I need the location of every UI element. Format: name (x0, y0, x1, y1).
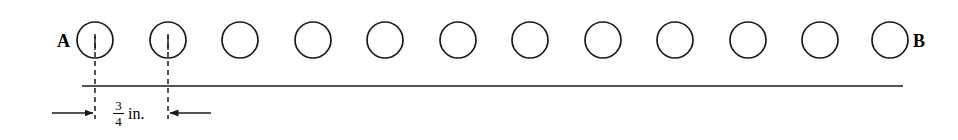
circle-hole (802, 22, 838, 58)
circle-hole (367, 22, 403, 58)
center-tick-group (95, 36, 168, 50)
circle-hole (657, 22, 693, 58)
endpoint-label-b: B (913, 32, 925, 50)
fraction-denominator: 4 (113, 115, 124, 128)
circle-hole (222, 22, 258, 58)
dimension-unit: in. (128, 105, 144, 123)
fraction-three-quarters: 3 4 (113, 99, 124, 128)
fraction-numerator: 3 (113, 99, 124, 112)
circle-hole (585, 22, 621, 58)
dimension-label: 3 4 in. (113, 99, 144, 128)
circle-hole (512, 22, 548, 58)
circle-hole (730, 22, 766, 58)
endpoint-label-a: A (57, 32, 70, 50)
circle-hole (440, 22, 476, 58)
circle-hole (295, 22, 331, 58)
dimension-diagram: A B 3 4 in. (0, 0, 958, 140)
circle-hole (872, 22, 908, 58)
circle-row (77, 22, 908, 58)
